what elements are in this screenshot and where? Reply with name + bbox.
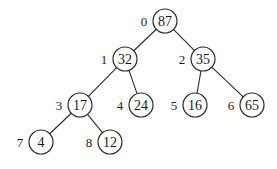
tree-node: 128: [86, 130, 122, 154]
tree-node: 165: [171, 93, 207, 117]
tree-node: 656: [228, 93, 264, 117]
node-value: 87: [158, 14, 172, 29]
tree-edge: [197, 71, 201, 93]
node-value: 35: [196, 52, 210, 67]
node-index-label: 0: [141, 14, 148, 29]
tree-edge: [134, 29, 157, 50]
node-index-label: 8: [86, 135, 93, 150]
node-value: 4: [38, 135, 45, 150]
heap-tree-diagram: 87032135217324416565647128: [0, 0, 277, 169]
node-index-label: 2: [179, 52, 186, 67]
node-value: 16: [188, 98, 202, 113]
tree-edge: [129, 70, 137, 93]
node-value: 32: [118, 52, 132, 67]
tree-node: 352: [179, 47, 215, 71]
node-index-label: 3: [56, 98, 63, 113]
tree-edges: [50, 29, 244, 133]
node-index-label: 1: [101, 52, 108, 67]
tree-edge: [50, 113, 72, 133]
node-value: 17: [73, 98, 87, 113]
tree-edge: [88, 68, 116, 97]
tree-edge: [173, 29, 194, 50]
tree-node: 321: [101, 47, 137, 71]
node-index-label: 6: [228, 98, 235, 113]
tree-edge: [212, 67, 244, 97]
node-value: 65: [245, 98, 259, 113]
tree-node: 244: [117, 93, 153, 117]
tree-node: 173: [56, 93, 92, 117]
node-index-label: 7: [17, 135, 24, 150]
tree-edge: [88, 114, 103, 132]
tree-node: 47: [17, 130, 53, 154]
node-index-label: 5: [171, 98, 178, 113]
node-index-label: 4: [117, 98, 124, 113]
tree-node: 870: [141, 9, 177, 33]
node-value: 24: [134, 98, 148, 113]
node-value: 12: [103, 135, 117, 150]
